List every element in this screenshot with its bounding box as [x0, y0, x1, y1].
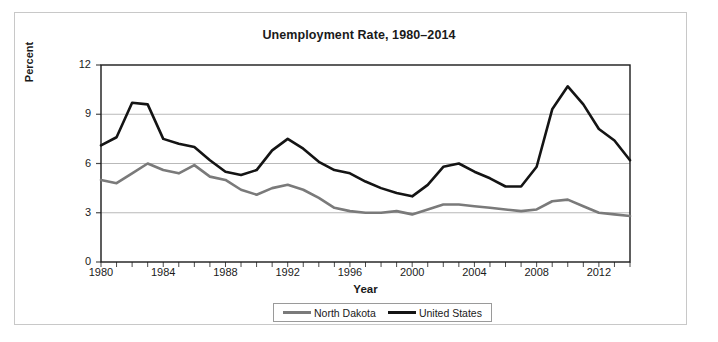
y-tick-label: 9: [65, 107, 91, 119]
x-tick-label: 1996: [330, 266, 370, 278]
series-lines: [101, 86, 630, 216]
legend-item: United States: [388, 307, 482, 319]
chart-figure: Unemployment Rate, 1980–2014 Percent Yea…: [0, 0, 718, 342]
legend-swatch-icon: [283, 311, 311, 314]
legend-swatch-icon: [388, 311, 416, 314]
gridlines: [101, 114, 630, 213]
y-tick-label: 3: [65, 206, 91, 218]
legend-label: North Dakota: [314, 307, 376, 319]
plot-area: [0, 0, 718, 342]
x-tick-label: 1988: [205, 266, 245, 278]
x-tick-label: 1984: [143, 266, 183, 278]
series-line-united-states: [101, 86, 630, 196]
x-tick-label: 2004: [454, 266, 494, 278]
legend-label: United States: [419, 307, 482, 319]
x-tick-label: 2008: [517, 266, 557, 278]
x-tick-label: 1992: [268, 266, 308, 278]
x-tick-label: 1980: [81, 266, 121, 278]
y-tick-label: 12: [65, 58, 91, 70]
x-tick-label: 2000: [392, 266, 432, 278]
chart-legend: North DakotaUnited States: [273, 303, 492, 322]
series-line-north-dakota: [101, 164, 630, 217]
y-tick-label: 6: [65, 157, 91, 169]
legend-item: North Dakota: [283, 307, 376, 319]
x-tick-label: 2012: [579, 266, 619, 278]
y-axis-ticks: [96, 65, 101, 262]
